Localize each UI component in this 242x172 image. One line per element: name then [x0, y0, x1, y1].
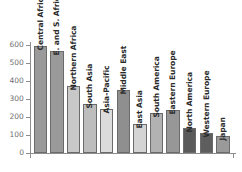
- y-tick-label: 500: [0, 59, 24, 67]
- y-tick-mark: [26, 135, 30, 136]
- bar: [83, 104, 97, 153]
- y-tick-label: 100: [0, 131, 24, 139]
- category-label: E. and S. Africa: [54, 0, 62, 56]
- y-tick-mark: [26, 81, 30, 82]
- category-label: South America: [153, 56, 161, 117]
- x-axis-end-tick: [233, 154, 234, 158]
- category-label: Japan: [220, 117, 228, 140]
- bar: [150, 113, 164, 153]
- y-tick-mark: [26, 117, 30, 118]
- category-label: Central Africa: [37, 0, 45, 51]
- category-label: Western Europe: [203, 70, 211, 137]
- y-tick-label: 600: [0, 41, 24, 49]
- bar: [166, 110, 180, 153]
- y-tick-label: 0: [0, 149, 24, 157]
- category-label: Eastern Europe: [170, 50, 178, 114]
- bar: [34, 46, 48, 153]
- y-tick-mark: [26, 63, 30, 64]
- y-tick-label: 400: [0, 77, 24, 85]
- category-label: South Asia: [87, 64, 95, 109]
- category-label: East Asia: [137, 90, 145, 128]
- bar: [117, 90, 131, 153]
- category-label: Middle East: [120, 46, 128, 95]
- category-label: North America: [186, 72, 194, 133]
- y-tick-label: 200: [0, 113, 24, 121]
- y-tick-label: 300: [0, 95, 24, 103]
- category-label: Northern Africa: [70, 26, 78, 91]
- bar-chart: 0100200300400500600 Central AfricaE. and…: [0, 0, 242, 172]
- category-label: Asia-Pacific: [103, 65, 111, 113]
- bar: [67, 86, 81, 153]
- bar: [50, 51, 64, 153]
- bar: [100, 109, 114, 153]
- x-axis-end-tick: [30, 154, 31, 158]
- x-axis-line: [30, 153, 236, 154]
- y-tick-mark: [26, 99, 30, 100]
- y-tick-mark: [26, 45, 30, 46]
